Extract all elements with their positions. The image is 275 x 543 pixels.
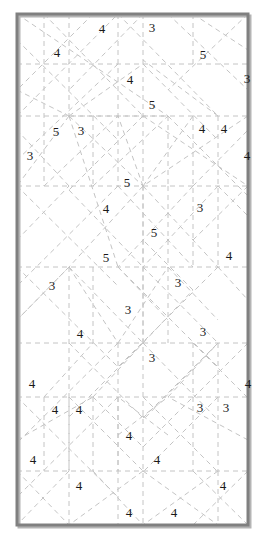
clue-number: 4 xyxy=(52,403,59,416)
clue-number: 4 xyxy=(245,377,252,390)
clue-number: 4 xyxy=(54,46,61,59)
grid-line xyxy=(118,116,143,186)
clue-number: 4 xyxy=(199,122,206,135)
frame-shadow xyxy=(19,16,250,527)
clue-number: 5 xyxy=(124,176,131,189)
clue-number: 4 xyxy=(126,429,133,442)
clue-number: 5 xyxy=(149,98,156,111)
grid-line xyxy=(17,14,168,116)
clue-number: 4 xyxy=(76,479,83,492)
clue-number: 4 xyxy=(76,403,83,416)
clue-number: 4 xyxy=(244,149,251,162)
clue-number: 3 xyxy=(78,124,85,137)
frame-border xyxy=(17,14,248,525)
puzzle-line-canvas xyxy=(0,0,275,543)
dashed-construction-lines xyxy=(17,14,248,525)
grid-line xyxy=(193,130,248,186)
clue-number: 3 xyxy=(244,72,251,85)
clue-number: 4 xyxy=(127,73,134,86)
clue-number: 4 xyxy=(171,506,178,519)
clue-number: 4 xyxy=(126,506,133,519)
clue-number: 3 xyxy=(223,401,230,414)
clue-number: 4 xyxy=(154,453,161,466)
grid-line xyxy=(143,240,193,290)
grid-line xyxy=(218,267,248,300)
clue-number: 5 xyxy=(151,226,158,239)
clue-number: 5 xyxy=(103,251,110,264)
clue-number: 3 xyxy=(197,201,204,214)
grid-line xyxy=(193,14,248,50)
clue-number: 3 xyxy=(197,401,204,414)
clue-number: 4 xyxy=(220,479,227,492)
grid-line xyxy=(118,14,218,116)
clue-number: 4 xyxy=(103,202,110,215)
clue-number: 4 xyxy=(226,249,233,262)
grid-line xyxy=(168,397,248,440)
clue-number: 3 xyxy=(149,351,156,364)
clue-number: 3 xyxy=(200,325,207,338)
grid-line xyxy=(17,116,69,186)
clue-number: 3 xyxy=(175,276,182,289)
clue-number: 3 xyxy=(125,303,132,316)
clue-number: 4 xyxy=(29,377,36,390)
clue-number: 4 xyxy=(30,453,37,466)
grid-line xyxy=(17,130,69,186)
clue-number: 3 xyxy=(49,279,56,292)
grid-line xyxy=(17,90,69,116)
clue-number: 3 xyxy=(27,149,34,162)
grid-line xyxy=(168,116,248,196)
clue-number: 5 xyxy=(53,125,60,138)
grid-line xyxy=(17,267,118,367)
puzzle-grid-container: 43454355344345435543334334444334444444 xyxy=(0,0,275,543)
clue-number: 3 xyxy=(149,21,156,34)
clue-number: 4 xyxy=(77,327,84,340)
clue-number: 4 xyxy=(221,122,228,135)
grid-line xyxy=(17,343,118,443)
clue-number: 5 xyxy=(200,48,207,61)
clue-number: 4 xyxy=(99,22,106,35)
